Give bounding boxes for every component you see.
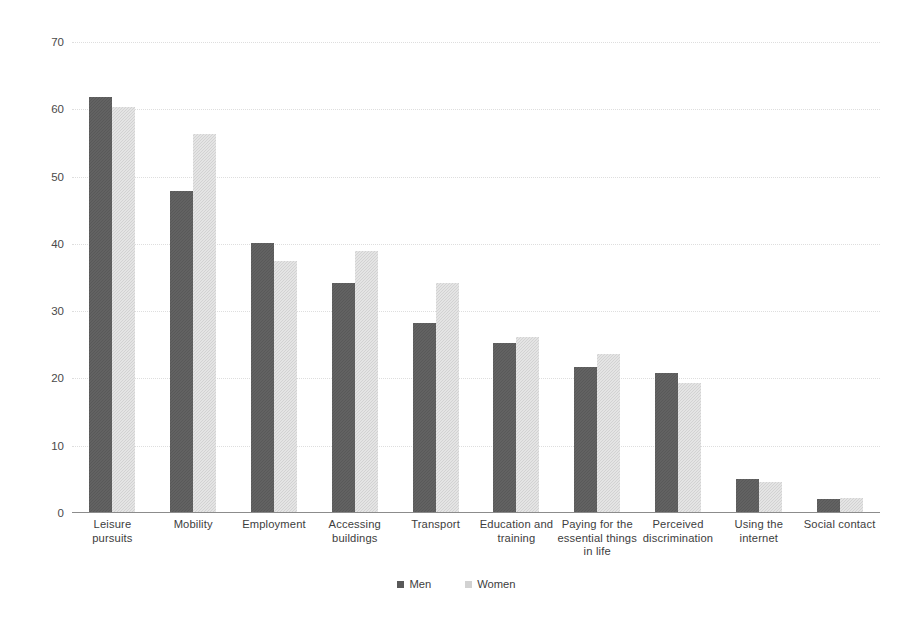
bar-group [89,42,135,513]
y-tick-label-30: 30 [28,305,64,317]
y-tick-label-70: 70 [28,36,64,48]
bar-group [413,42,459,513]
bar-men[interactable] [170,191,193,513]
bar-men[interactable] [251,243,274,513]
plot-area [72,42,880,513]
bar-women[interactable] [436,283,459,513]
bar-men[interactable] [736,479,759,513]
x-category-label: Perceiveddiscrimination [638,518,719,545]
bar-women[interactable] [597,354,620,513]
x-category-label-line: essential things [557,532,638,546]
x-category-label-line: discrimination [638,532,719,546]
bar-women[interactable] [355,251,378,513]
y-tick-label-40: 40 [28,238,64,250]
bar-women[interactable] [678,383,701,513]
bar-men[interactable] [413,323,436,513]
legend-item-men[interactable]: Men [397,578,431,590]
bar-men[interactable] [493,343,516,513]
bar-women[interactable] [112,107,135,513]
x-category-label-line: Mobility [153,518,234,532]
x-category-label-line: Employment [234,518,315,532]
bar-chart: 010203040506070 Leisure pursuitsMobility… [0,0,913,625]
bar-men[interactable] [574,367,597,513]
y-tick-label-0: 0 [28,507,64,519]
bar-men[interactable] [655,373,678,513]
bar-group [493,42,539,513]
x-category-label-line: Using the [718,518,799,532]
bar-women[interactable] [516,337,539,513]
bar-women[interactable] [274,261,297,513]
bar-group [736,42,782,513]
x-category-label: Paying for theessential thingsin life [557,518,638,559]
y-tick-label-60: 60 [28,103,64,115]
bar-women[interactable] [759,482,782,513]
bar-group [655,42,701,513]
x-category-label-line: Social contact [799,518,880,532]
bar-group [817,42,863,513]
x-category-label: Employment [234,518,315,532]
bar-men[interactable] [89,97,112,513]
x-category-label-line: training [476,532,557,546]
x-category-label: Using theinternet [718,518,799,545]
x-category-label-line: buildings [314,532,395,546]
x-category-label: Social contact [799,518,880,532]
bar-group [251,42,297,513]
x-category-label: Transport [395,518,476,532]
x-category-label-line: Transport [395,518,476,532]
legend-item-women[interactable]: Women [465,578,515,590]
chart-legend: Men Women [0,578,913,590]
x-axis-category-labels: Leisure pursuitsMobilityEmploymentAccess… [72,518,880,566]
x-category-label-line: Leisure pursuits [72,518,153,545]
bar-group [170,42,216,513]
y-tick-label-10: 10 [28,440,64,452]
x-category-label: Mobility [153,518,234,532]
x-category-label-line: internet [718,532,799,546]
x-category-label: Accessingbuildings [314,518,395,545]
legend-swatch-men-icon [397,581,404,588]
x-axis-line [72,512,880,513]
bar-group [332,42,378,513]
bar-group [574,42,620,513]
y-tick-label-50: 50 [28,171,64,183]
x-category-label-line: Paying for the [557,518,638,532]
bar-women[interactable] [840,498,863,513]
x-category-label-line: in life [557,545,638,559]
x-category-label-line: Accessing [314,518,395,532]
x-category-label: Leisure pursuits [72,518,153,545]
x-category-label-line: Perceived [638,518,719,532]
bar-men[interactable] [332,283,355,513]
x-category-label-line: Education and [476,518,557,532]
legend-swatch-women-icon [465,581,472,588]
x-category-label: Education andtraining [476,518,557,545]
legend-label-women: Women [477,578,515,590]
bar-men[interactable] [817,499,840,513]
legend-label-men: Men [409,578,431,590]
y-tick-label-20: 20 [28,372,64,384]
bar-women[interactable] [193,134,216,513]
